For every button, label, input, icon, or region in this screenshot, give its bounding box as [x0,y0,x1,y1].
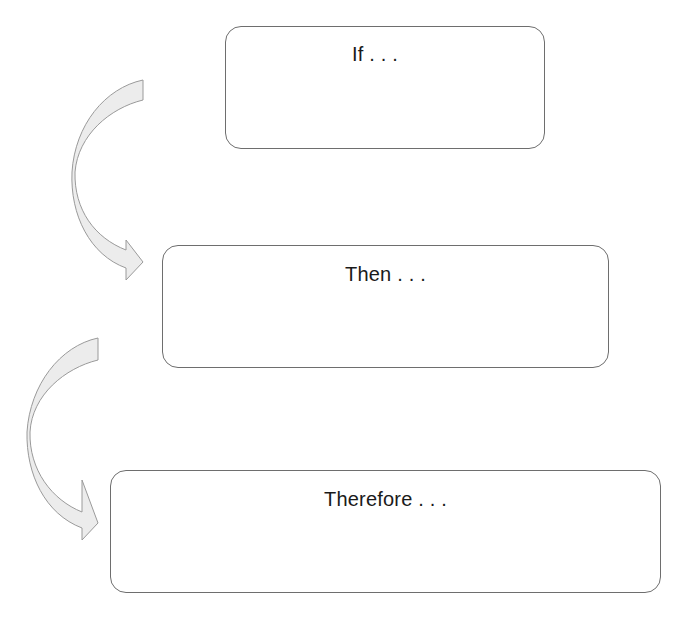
therefore-box: Therefore . . . [110,470,661,593]
then-box: Then . . . [162,245,609,368]
curved-arrow-icon-if-to-then [72,80,143,280]
if-box: If . . . [225,26,545,149]
then-label: Then . . . [163,263,608,286]
curved-arrow-icon-then-to-therefore [27,338,98,540]
flow-diagram: If . . . Then . . . Therefore . . . [0,0,692,621]
therefore-label: Therefore . . . [111,488,660,511]
if-label: If . . . [206,43,544,66]
